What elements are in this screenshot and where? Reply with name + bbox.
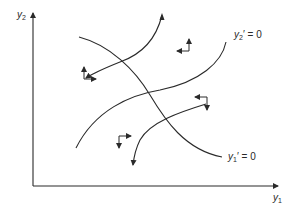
trajectory-upper-arrowhead-top — [160, 13, 165, 20]
direction-arrows-top — [177, 39, 189, 51]
y2-nullcline-curve — [76, 42, 226, 148]
direction-arrows-right — [195, 97, 207, 110]
direction-arrows-bottom — [119, 136, 131, 148]
y2-nullcline-label: y2′ = 0 — [234, 29, 262, 41]
y2-axis-label: y2 — [17, 9, 26, 21]
trajectory-upper — [86, 15, 162, 78]
y1-axis-label: y1 — [273, 192, 282, 204]
y1-nullcline-label: y1′ = 0 — [228, 151, 256, 163]
trajectory-lower — [133, 104, 206, 165]
